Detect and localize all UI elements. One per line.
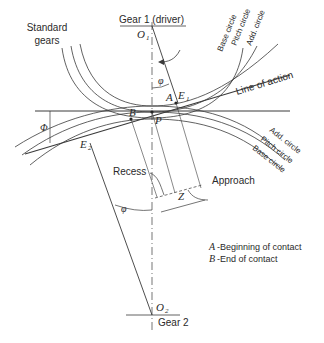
approach-leader <box>188 190 208 200</box>
proj-a <box>176 103 201 188</box>
o1-sub: 1 <box>146 34 150 42</box>
e1-label: E <box>177 89 185 101</box>
gear2-label: Gear 2 <box>158 317 189 328</box>
gear-contact-diagram: Standard gears Gear 1 (driver) O 1 φ A E… <box>0 0 324 343</box>
gear1-base-circle <box>62 48 243 118</box>
phi-left-label: Φ <box>40 122 48 133</box>
recess-label: Recess <box>113 166 146 177</box>
diagram-canvas: Standard gears Gear 1 (driver) O 1 φ A E… <box>0 0 324 343</box>
e2-label: E <box>79 138 87 150</box>
z-label: Z <box>178 190 185 202</box>
standard-gears-label-1: Standard <box>27 22 68 33</box>
o1-label: O <box>137 28 145 40</box>
phi-bottom-label: φ <box>121 203 127 214</box>
p-label: P <box>154 114 162 126</box>
legend-a-text: -Beginning of contact <box>217 242 302 252</box>
gear1-pitch-circle <box>71 46 257 112</box>
legend-b-key: B <box>209 253 215 264</box>
o1-e1-radius <box>152 26 178 103</box>
e2-sub: 2 <box>88 144 92 152</box>
gear2-base-circle <box>30 119 280 168</box>
b-label: B <box>129 106 136 118</box>
a-label: A <box>165 91 173 103</box>
line-of-action-label: Line of action <box>234 69 294 97</box>
gear1-label: Gear 1 (driver) <box>119 14 184 25</box>
o2-label: O <box>156 301 164 313</box>
gear2-circles <box>15 106 285 168</box>
standard-gears-label-2: gears <box>34 35 59 46</box>
phi-top-label: φ <box>158 75 164 86</box>
legend-a-key: A <box>208 241 216 252</box>
rotation-arrowhead <box>158 59 164 65</box>
legend-b-text: -End of contact <box>217 254 278 264</box>
e1-sub: 1 <box>186 95 190 103</box>
proj-b <box>131 119 157 197</box>
o2-sub: 2 <box>165 307 169 315</box>
approach-label: Approach <box>212 175 255 186</box>
